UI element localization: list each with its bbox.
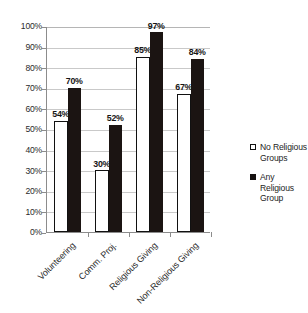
y-axis-tick-label: 10% [0, 208, 42, 217]
y-axis-tick-label: 90% [0, 43, 42, 52]
legend-entry[interactable]: No Religious Groups [250, 142, 308, 163]
legend-swatch-filled [250, 174, 256, 180]
y-axis-tick-label: 20% [0, 187, 42, 196]
y-axis-tick-label: 0% [0, 228, 42, 237]
x-axis-category-label: Volunteering [0, 241, 78, 313]
chart-legend: No Religious GroupsAny Religious Group [250, 142, 308, 213]
y-axis-tick-label: 60% [0, 105, 42, 114]
x-axis-tick-mark [129, 232, 130, 237]
x-axis-tick-mark [170, 232, 171, 237]
bar-value-label: 84% [180, 48, 214, 57]
legend-label: Any Religious Group [260, 172, 294, 203]
y-axis-tick-label: 100% [0, 22, 42, 31]
bar-chart: 0%10%20%30%40%50%60%70%80%90%100% 54%70%… [0, 0, 308, 313]
legend-label: No Religious Groups [260, 142, 307, 163]
y-axis-tick-label: 40% [0, 146, 42, 155]
x-axis-tick-mark [88, 232, 89, 237]
y-axis-tick-label: 80% [0, 64, 42, 73]
legend-swatch-hollow [250, 144, 256, 150]
plot-area: 54%70%30%52%85%97%67%84% [46, 27, 210, 233]
x-axis-tick-mark [211, 232, 212, 237]
y-axis-tick-label: 50% [0, 125, 42, 134]
bar-no-religious-groups [177, 94, 191, 232]
legend-entry[interactable]: Any Religious Group [250, 172, 308, 204]
bar-any-religious-group [191, 59, 205, 232]
y-axis-tick-label: 30% [0, 167, 42, 176]
bar-group: 67%84% [47, 27, 210, 232]
y-axis-tick-label: 70% [0, 84, 42, 93]
y-axis-tick-mark [41, 233, 46, 234]
